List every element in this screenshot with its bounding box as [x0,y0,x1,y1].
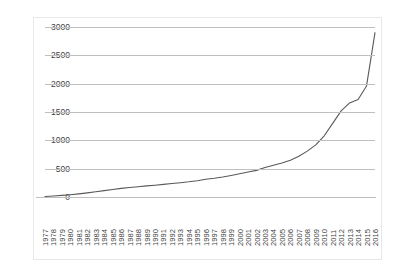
gridline-3000 [45,27,375,28]
series-polyline [45,33,375,197]
x-tick-label-2014: 2014 [355,200,363,246]
chart-figure: 050010001500200025003000 197719781979198… [0,0,398,277]
x-tick-label-1986: 1986 [118,200,126,246]
x-tick-label-2016: 2016 [372,200,380,246]
x-tick-label-1988: 1988 [135,200,143,246]
plot-area [45,27,375,197]
gridline-1000 [45,140,375,141]
gridline-500 [45,169,375,170]
x-axis-line [36,197,376,198]
gridline-2500 [45,55,375,56]
x-tick-label-1999: 1999 [228,200,236,246]
gridline-1500 [45,112,375,113]
x-tick-label-2001: 2001 [245,200,253,246]
x-tick-label-2012: 2012 [338,200,346,246]
gridline-2000 [45,84,375,85]
top-caption-text [8,0,390,11]
x-axis-labels: 1977197819791980198119821983198419851986… [45,200,375,248]
